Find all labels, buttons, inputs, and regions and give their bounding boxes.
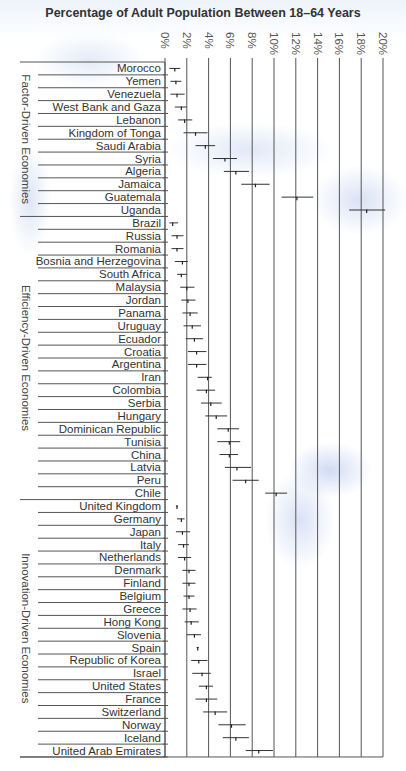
x-tick-label: 6% bbox=[224, 32, 236, 49]
row-label: Germany bbox=[114, 513, 162, 525]
row-label: Serbia bbox=[128, 397, 162, 409]
x-tick-label: 14% bbox=[312, 32, 324, 55]
row-label: Malaysia bbox=[116, 281, 162, 293]
row-label: Finland bbox=[123, 577, 161, 589]
row-label: Chile bbox=[135, 487, 161, 499]
row-label: West Bank and Gaza bbox=[53, 101, 162, 113]
x-tick-label: 12% bbox=[290, 32, 302, 55]
row-label: Iceland bbox=[124, 732, 161, 744]
row-label: Lebanon bbox=[116, 114, 161, 126]
error-bar-chart: 0%2%4%6%8%10%12%14%16%18%20%MoroccoYemen… bbox=[0, 0, 406, 771]
row-label: Kingdom of Tonga bbox=[69, 127, 162, 139]
row-label: Spain bbox=[132, 642, 161, 654]
row-label: Uganda bbox=[121, 204, 162, 216]
x-tick-label: 20% bbox=[377, 32, 389, 55]
row-label: Jordan bbox=[126, 294, 161, 306]
row-label: Romania bbox=[115, 243, 162, 255]
group-label: Factor-Driven Economies bbox=[20, 74, 32, 204]
group-label: Innovation-Driven Economies bbox=[20, 553, 32, 703]
row-label: Russia bbox=[126, 230, 162, 242]
group-label: Efficiency-Driven Economies bbox=[20, 285, 32, 431]
row-label: Iran bbox=[141, 371, 161, 383]
row-label: Dominican Republic bbox=[59, 423, 162, 435]
row-label: United Kingdom bbox=[79, 500, 161, 512]
row-label: Ecuador bbox=[118, 333, 161, 345]
row-label: Yemen bbox=[126, 75, 161, 87]
row-label: Greece bbox=[123, 603, 161, 615]
row-label: Switzerland bbox=[102, 706, 161, 718]
row-label: France bbox=[125, 693, 161, 705]
row-label: China bbox=[131, 449, 162, 461]
row-label: Uruguay bbox=[118, 320, 162, 332]
x-tick-label: 16% bbox=[333, 32, 345, 55]
row-label: Belgium bbox=[119, 590, 161, 602]
row-label: Tunisia bbox=[124, 436, 161, 448]
row-label: United States bbox=[92, 680, 161, 692]
row-label: Latvia bbox=[130, 461, 161, 473]
row-label: Slovenia bbox=[117, 629, 162, 641]
row-label: Croatia bbox=[124, 346, 162, 358]
row-label: Republic of Korea bbox=[70, 654, 162, 666]
row-label: Bosnia and Herzegovina bbox=[36, 255, 162, 267]
row-label: Brazil bbox=[132, 217, 161, 229]
row-label: United Arab Emirates bbox=[52, 745, 161, 757]
row-label: Italy bbox=[140, 539, 161, 551]
row-label: South Africa bbox=[99, 268, 162, 280]
x-tick-label: 2% bbox=[181, 32, 193, 49]
x-tick-label: 0% bbox=[159, 32, 171, 49]
row-label: Guatemala bbox=[105, 191, 162, 203]
x-tick-label: 4% bbox=[203, 32, 215, 49]
row-label: Netherlands bbox=[99, 551, 161, 563]
row-label: Algeria bbox=[125, 165, 161, 177]
row-label: Peru bbox=[137, 474, 161, 486]
row-label: Norway bbox=[122, 719, 161, 731]
x-tick-label: 8% bbox=[246, 32, 258, 49]
row-label: Jamaica bbox=[118, 178, 161, 190]
row-label: Syria bbox=[135, 153, 162, 165]
row-label: Hong Kong bbox=[103, 616, 161, 628]
x-tick-label: 18% bbox=[355, 32, 367, 55]
row-label: Morocco bbox=[117, 62, 161, 74]
row-label: Hungary bbox=[118, 410, 162, 422]
row-label: Colombia bbox=[112, 384, 161, 396]
row-label: Saudi Arabia bbox=[96, 140, 162, 152]
row-label: Israel bbox=[133, 667, 161, 679]
row-label: Argentina bbox=[112, 358, 162, 370]
row-label: Panama bbox=[118, 307, 161, 319]
x-tick-label: 10% bbox=[268, 32, 280, 55]
row-label: Japan bbox=[130, 526, 161, 538]
row-label: Denmark bbox=[114, 564, 161, 576]
row-label: Venezuela bbox=[107, 88, 161, 100]
